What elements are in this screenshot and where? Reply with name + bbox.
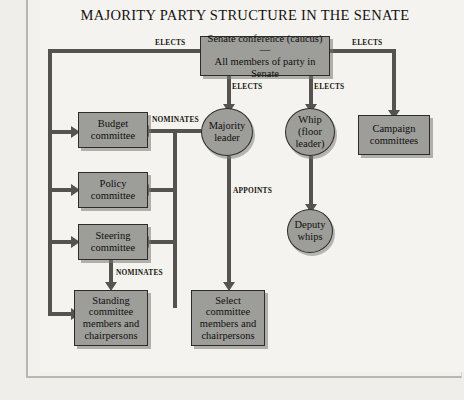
node-deputy-whips-line2: whips [292, 231, 329, 243]
node-campaign-committees[interactable]: Campaign committees [358, 115, 430, 155]
node-whip-line3: leader) [292, 138, 327, 150]
node-standing-line4: chairpersons [80, 330, 142, 342]
node-whip-floor-leader[interactable]: Whip (floor leader) [285, 108, 335, 156]
edge-right-trunk-v [392, 49, 396, 115]
node-majority-leader-line1: Majority [206, 120, 249, 132]
edge-label-appoints: APPOINTS [233, 186, 272, 195]
node-deputy-whips-line1: Deputy [292, 219, 329, 231]
edge-left-trunk-to-policy [48, 188, 72, 192]
node-senate-caucus-line1: Senate conference (caucus)— [204, 33, 326, 57]
edge-left-trunk-to-steering [48, 240, 72, 244]
edge-caucus-to-left-trunk-h [48, 49, 200, 53]
edge-label-elects-left: ELECTS [155, 38, 185, 47]
node-steering-committee[interactable]: Steering committee [78, 224, 148, 260]
node-deputy-whips[interactable]: Deputy whips [287, 209, 333, 253]
edge-label-elects-whip: ELECTS [314, 82, 344, 91]
node-whip-line1: Whip [292, 114, 327, 126]
node-policy-committee[interactable]: Policy committee [78, 172, 148, 208]
edge-whip-to-deputy-whips [309, 156, 313, 208]
diagram-canvas: MAJORITY PARTY STRUCTURE IN THE SENATE E… [0, 0, 464, 400]
edge-label-elects-right: ELECTS [352, 38, 382, 47]
node-budget-line1: Budget [88, 118, 138, 130]
node-steering-line1: Steering [88, 230, 138, 242]
node-standing-line1: Standing [80, 295, 142, 307]
node-budget-line2: committee [88, 130, 138, 142]
edge-leader-appoints-select [227, 156, 231, 286]
edge-caucus-to-right-trunk-h [330, 49, 396, 53]
node-standing-committee-members[interactable]: Standing committee members and chairpers… [74, 290, 148, 346]
node-budget-committee[interactable]: Budget committee [78, 112, 148, 148]
node-policy-line1: Policy [88, 178, 138, 190]
node-select-committee-members[interactable]: Select committee members and chairperson… [191, 290, 265, 346]
edge-leader-nominates-spine [173, 129, 177, 308]
edge-leader-to-budget [148, 129, 177, 133]
node-senate-caucus[interactable]: Senate conference (caucus)— All members … [200, 36, 330, 76]
edge-left-trunk-to-standing [48, 312, 72, 316]
node-majority-leader[interactable]: Majority leader [201, 108, 253, 156]
node-select-line4: chairpersons [197, 330, 259, 342]
node-select-line2: committee [197, 306, 259, 318]
edge-leader-to-steering [148, 240, 177, 244]
node-select-line3: members and [197, 318, 259, 330]
node-campaign-line1: Campaign [367, 123, 421, 135]
edge-left-trunk-v [48, 49, 52, 314]
node-standing-line3: members and [80, 318, 142, 330]
node-majority-leader-line2: leader [206, 132, 249, 144]
node-senate-caucus-line2: All members of party in Senate [204, 56, 326, 80]
edge-leader-to-policy [148, 188, 177, 192]
node-campaign-line2: committees [367, 135, 421, 147]
node-policy-line2: committee [88, 190, 138, 202]
node-select-line1: Select [197, 295, 259, 307]
edge-left-trunk-to-budget [48, 130, 72, 134]
edge-label-nominates-leader: NOMINATES [152, 115, 199, 124]
edge-label-elects-majority: ELECTS [232, 82, 262, 91]
node-standing-line2: committee [80, 306, 142, 318]
edge-label-nominates-steering: NOMINATES [116, 268, 163, 277]
page-title: MAJORITY PARTY STRUCTURE IN THE SENATE [40, 7, 450, 24]
node-steering-line2: committee [88, 242, 138, 254]
node-whip-line2: (floor [292, 126, 327, 138]
